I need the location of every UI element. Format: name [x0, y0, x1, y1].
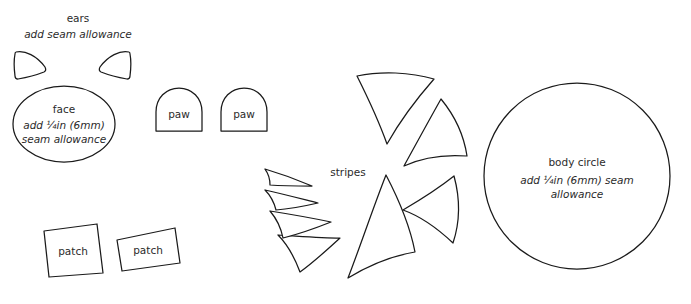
paw-label-right: paw — [233, 108, 255, 120]
paw-label-left: paw — [168, 108, 190, 120]
patch-label-right: patch — [133, 244, 163, 256]
ears-note: add seam allowance — [24, 28, 132, 40]
stripe-piece-4 — [348, 175, 415, 278]
stripe-piece-6 — [270, 211, 331, 238]
stripe-piece-2 — [404, 99, 467, 166]
body-circle-label: body circle — [548, 156, 605, 168]
patch-label-left: patch — [58, 245, 88, 257]
ears-heading: ears — [67, 12, 90, 24]
face-note-line-2: seam allowance — [22, 133, 107, 145]
face-note-line-1: add ¼in (6mm) — [23, 119, 105, 131]
stripe-piece-3 — [403, 176, 458, 243]
body-circle-note-line-1: add ¼in (6mm) seam — [520, 174, 633, 186]
body-circle-note-line-2: allowance — [551, 188, 604, 200]
stripes-group — [265, 73, 467, 278]
pattern-sheet: ears add seam allowance face add ¼in (6m… — [0, 0, 691, 304]
stripe-piece-5 — [278, 235, 340, 272]
stripe-piece-7 — [265, 190, 318, 210]
ear-piece-right — [99, 52, 130, 79]
stripes-label: stripes — [330, 166, 365, 178]
stripe-piece-8 — [265, 169, 312, 186]
pattern-canvas: ears add seam allowance face add ¼in (6m… — [0, 0, 691, 304]
face-label: face — [53, 103, 75, 115]
ear-piece-left — [14, 52, 45, 79]
